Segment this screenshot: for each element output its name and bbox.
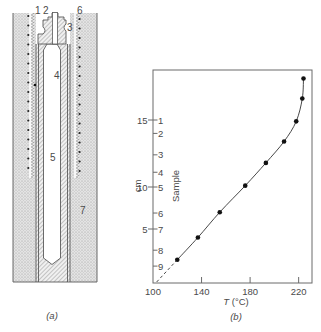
coil-winding-dot — [27, 43, 29, 45]
data-point — [264, 161, 269, 166]
coil-winding-dot — [79, 65, 81, 67]
coil-winding-dot — [27, 138, 29, 140]
part-label-6: 6 — [77, 5, 83, 16]
sample-tick-label: 8 — [158, 245, 163, 256]
part-label-3: 3 — [67, 22, 73, 33]
coil-winding-dot — [79, 37, 81, 39]
data-point — [301, 76, 306, 81]
data-point — [243, 183, 248, 188]
part-label-4: 4 — [54, 70, 60, 81]
coil-winding-dot — [79, 27, 81, 29]
coil-winding-dot — [27, 15, 29, 17]
part-label-5: 5 — [50, 152, 56, 163]
coil-winding-dot — [27, 148, 29, 150]
panel-b-chart: 100140180220 51015 123456789 cm Sample T… — [132, 70, 313, 322]
panel-a-diagram: 1 2 3 4 5 6 7 (a) — [13, 5, 97, 321]
coil-winding-dot — [27, 24, 29, 26]
coil-winding-dot — [27, 53, 29, 55]
heater-coil-right — [74, 13, 79, 178]
part-label-1: 1 — [35, 5, 41, 16]
sample-tick-label: 4 — [158, 167, 163, 178]
data-point — [175, 257, 180, 262]
coil-winding-dot — [27, 129, 29, 131]
y-axis-cm-ticks: 51015 — [137, 115, 153, 235]
sample-tick-label: 1 — [158, 115, 163, 126]
coil-winding-dot — [79, 75, 81, 77]
coil-winding-dot — [79, 84, 81, 86]
coil-winding-dot — [79, 18, 81, 20]
coil-winding-dot — [27, 81, 29, 83]
x-tick-label: 140 — [194, 286, 210, 297]
sample-tick-label: 7 — [158, 224, 163, 235]
coil-winding-dot — [79, 94, 81, 96]
coil-winding-dot — [79, 103, 81, 105]
data-point — [294, 119, 299, 124]
x-axis-ticks: 100140180220 — [145, 277, 307, 297]
coil-winding-dot — [27, 157, 29, 159]
sample-tick-label: 6 — [158, 208, 163, 219]
coil-winding-dot — [79, 46, 81, 48]
data-point — [196, 235, 201, 240]
coil-winding-dot — [27, 110, 29, 112]
y-axis-label-cm: cm — [132, 180, 143, 193]
sample-tick-label: 5 — [158, 182, 163, 193]
coil-winding-dot — [79, 141, 81, 143]
x-tick-label: 220 — [291, 286, 307, 297]
panel-a-caption: (a) — [46, 310, 58, 321]
x-tick-label: 100 — [145, 286, 161, 297]
sample-tick-label: 2 — [158, 128, 163, 139]
coil-winding-dot — [79, 160, 81, 162]
heater-coil-left — [29, 13, 34, 178]
coil-winding-dot — [79, 56, 81, 58]
coil-winding-dot — [27, 100, 29, 102]
thermocouple-junction-dot — [34, 84, 37, 87]
sample-tick-label: 9 — [158, 261, 163, 272]
coil-winding-dot — [27, 91, 29, 93]
part-label-7: 7 — [80, 205, 86, 216]
data-point — [282, 139, 287, 144]
coil-winding-dot — [27, 34, 29, 36]
thermocouple-rod — [53, 13, 58, 45]
coil-winding-dot — [27, 119, 29, 121]
coil-winding-dot — [27, 72, 29, 74]
part-label-2: 2 — [43, 5, 49, 16]
coil-winding-dot — [79, 170, 81, 172]
data-point — [217, 210, 222, 215]
data-markers — [175, 76, 306, 262]
x-axis-label: T (°C) — [223, 296, 248, 307]
data-point — [300, 96, 305, 101]
y-tick-label-cm: 15 — [137, 115, 148, 126]
y-axis-label-sample: Sample — [170, 170, 181, 202]
coil-winding-dot — [79, 122, 81, 124]
y-tick-label-cm: 5 — [142, 224, 147, 235]
panel-b-caption: (b) — [230, 311, 242, 322]
coil-winding-dot — [79, 151, 81, 153]
figure: 1 2 3 4 5 6 7 (a) 100140180220 51015 123… — [0, 0, 321, 332]
coil-winding-dot — [79, 113, 81, 115]
coil-winding-dot — [79, 132, 81, 134]
x-axis-label-unit: (°C) — [229, 296, 249, 307]
temperature-profile-curve — [177, 78, 303, 259]
y-axis-sample-ticks: 123456789 — [153, 115, 163, 272]
sample-tick-label: 3 — [158, 149, 163, 160]
coil-winding-dot — [27, 62, 29, 64]
top-plug-cap — [38, 13, 66, 44]
coil-winding-dot — [27, 167, 29, 169]
